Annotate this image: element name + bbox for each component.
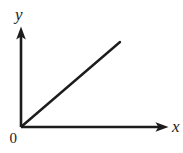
origin-label: 0 [10, 130, 18, 146]
y-axis-label: y [13, 5, 23, 24]
linear-ray [22, 42, 121, 127]
coordinate-plot-svg: y x 0 [0, 0, 183, 153]
figure-root: y x 0 [0, 0, 183, 153]
x-axis-label: x [171, 117, 180, 136]
